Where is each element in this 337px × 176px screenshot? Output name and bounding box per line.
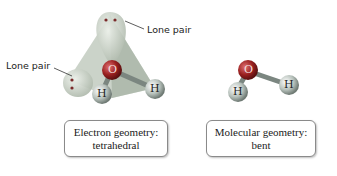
lone-pair-label-top: Lone pair: [147, 24, 191, 35]
hydrogen-atom-label: H: [233, 85, 243, 98]
oxygen-atom-label: O: [244, 63, 253, 76]
lone-pair-label-left: Lone pair: [6, 60, 50, 71]
hydrogen-atom-label: H: [150, 82, 160, 95]
caption-line: Molecular geometry:: [207, 126, 315, 139]
caption-line: bent: [207, 139, 315, 152]
hydrogen-atom-label: H: [284, 78, 294, 91]
electron-geometry-caption: Electron geometry: tetrahedral: [64, 120, 168, 157]
hydrogen-atom-label: H: [97, 87, 107, 100]
caption-line: Electron geometry:: [65, 126, 167, 139]
caption-line: tetrahedral: [65, 139, 167, 152]
molecular-geometry-caption: Molecular geometry: bent: [206, 120, 316, 157]
oxygen-atom-label: O: [108, 63, 117, 76]
lone-pair-left-lobe: [63, 69, 93, 97]
